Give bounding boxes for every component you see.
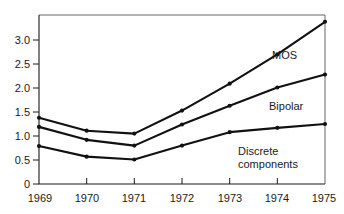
ytick-label-0: 0 xyxy=(24,178,30,190)
data-point xyxy=(228,130,232,134)
ytick-label-1-5: 1.5 xyxy=(15,106,30,118)
data-point xyxy=(180,108,184,112)
ytick-label-3-0: 3.0 xyxy=(15,34,30,46)
series-discrete-components xyxy=(37,122,327,162)
series-annotations: MOS Bipolar Discrete components xyxy=(238,49,304,170)
xtick-label-1970: 1970 xyxy=(75,192,99,204)
data-point xyxy=(85,138,89,142)
data-point xyxy=(37,116,41,120)
data-point xyxy=(37,144,41,148)
xtick-label-1974: 1974 xyxy=(265,192,289,204)
data-point xyxy=(228,82,232,86)
data-point xyxy=(180,122,184,126)
data-point xyxy=(323,122,327,126)
y-axis-ticks xyxy=(33,40,39,184)
y-axis-labels: 0 0.5 1.0 1.5 2.0 2.5 3.0 xyxy=(15,34,30,190)
data-point xyxy=(275,126,279,130)
ytick-label-2-0: 2.0 xyxy=(15,82,30,94)
data-point xyxy=(85,129,89,133)
x-axis-labels: 1969 1970 1971 1972 1973 1974 1975 xyxy=(28,192,336,204)
x-axis-ticks xyxy=(87,178,278,184)
line-chart: 0 0.5 1.0 1.5 2.0 2.5 3.0 1969 1970 1971… xyxy=(0,0,344,214)
data-point xyxy=(228,104,232,108)
series-label-discrete-line1: Discrete xyxy=(238,145,278,157)
xtick-label-1969: 1969 xyxy=(28,192,52,204)
data-point xyxy=(323,72,327,76)
data-point xyxy=(37,125,41,129)
xtick-label-1971: 1971 xyxy=(122,192,146,204)
xtick-label-1972: 1972 xyxy=(170,192,194,204)
series-layer xyxy=(37,20,327,162)
data-point xyxy=(132,132,136,136)
chart-container: 0 0.5 1.0 1.5 2.0 2.5 3.0 1969 1970 1971… xyxy=(0,0,344,214)
series-mos xyxy=(37,20,327,136)
xtick-label-1973: 1973 xyxy=(218,192,242,204)
series-label-bipolar: Bipolar xyxy=(269,100,304,112)
data-point xyxy=(275,85,279,89)
data-point xyxy=(132,157,136,161)
series-label-mos: MOS xyxy=(272,49,297,61)
ytick-label-2-5: 2.5 xyxy=(15,58,30,70)
series-line-0 xyxy=(39,22,325,134)
series-label-discrete-line2: components xyxy=(238,158,298,170)
data-point xyxy=(180,144,184,148)
data-point xyxy=(323,20,327,24)
ytick-label-0-5: 0.5 xyxy=(15,154,30,166)
ytick-label-1-0: 1.0 xyxy=(15,130,30,142)
data-point xyxy=(132,144,136,148)
xtick-label-1975: 1975 xyxy=(312,192,336,204)
data-point xyxy=(85,155,89,159)
